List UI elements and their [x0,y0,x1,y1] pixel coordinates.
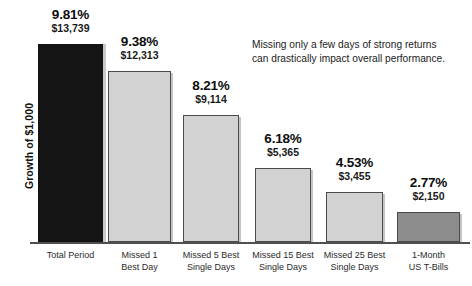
bar-percent-label: 6.18% [223,132,343,146]
chart-annotation: Missing only a few days of strong return… [252,38,467,65]
bar-amount-label: $2,150 [369,191,472,202]
bar [397,212,460,242]
bar-percent-label: 8.21% [151,79,271,93]
bar-value-label: 2.77%$2,150 [369,176,472,202]
bar-value-label: 9.81%$13,739 [11,8,131,34]
bar-amount-label: $9,114 [151,94,271,105]
bar-amount-label: $13,739 [11,23,131,34]
bar-amount-label: $12,313 [80,50,200,61]
bar [38,44,103,242]
bar-value-label: 9.38%$12,313 [80,35,200,61]
bar-value-label: 8.21%$9,114 [151,79,271,105]
bar-chart: Growth of $1,000 9.81%$13,7399.38%$12,31… [0,0,472,286]
category-label: 1-Month US T-Bills [379,250,472,273]
bar-value-label: 6.18%$5,365 [223,132,343,158]
bar-percent-label: 9.81% [11,8,131,22]
bar-percent-label: 2.77% [369,176,472,190]
x-axis-line [30,242,470,244]
bar-percent-label: 4.53% [295,156,415,170]
bar-percent-label: 9.38% [80,35,200,49]
